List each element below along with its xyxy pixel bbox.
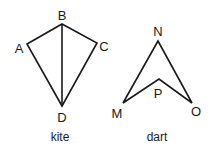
kite-caption: kite [51, 130, 70, 144]
dart-figure: N O P M dart [112, 24, 201, 144]
dart-caption: dart [147, 130, 168, 144]
vertex-label-n: N [153, 24, 162, 39]
vertex-label-m: M [112, 106, 123, 121]
vertex-label-p: P [154, 86, 163, 101]
vertex-label-o: O [191, 104, 201, 119]
vertex-label-b: B [58, 8, 67, 23]
vertex-label-c: C [99, 39, 108, 54]
kite-figure: A B C D kite [15, 8, 109, 144]
kite-dart-diagram: A B C D kite N O P M dart [0, 0, 211, 153]
vertex-label-d: D [57, 110, 66, 125]
vertex-label-a: A [15, 41, 24, 56]
